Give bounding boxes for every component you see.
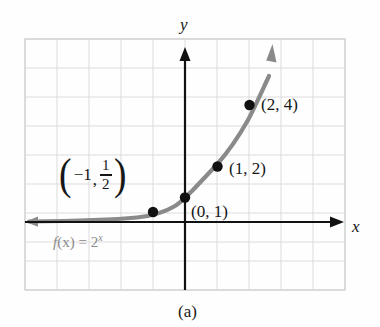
- function-equation-label: f(x) = 2x: [53, 233, 103, 250]
- data-point-neg1-half: [148, 207, 158, 217]
- data-point-0-1: [180, 192, 190, 202]
- right-paren: ): [114, 158, 126, 192]
- point-label-2-4: (2, 4): [261, 96, 298, 113]
- fraction-label-inner: −1 , 1 2: [73, 158, 113, 192]
- x-axis-arrowhead: [330, 217, 344, 228]
- x-value-neg-one: −1: [74, 165, 93, 185]
- fraction-numerator: 1: [100, 158, 112, 174]
- label-comma: ,: [93, 170, 100, 190]
- graph-canvas: [0, 0, 380, 327]
- function-exponent: x: [98, 232, 102, 243]
- exponential-function-figure: y x (2, 4) (1, 2) (0, 1) ( −1 , 1 2 ) f(…: [0, 0, 380, 327]
- y-axis-label: y: [180, 16, 188, 33]
- point-label-1-2: (1, 2): [229, 160, 266, 177]
- fraction-denominator: 2: [100, 176, 112, 192]
- data-point-2-4: [244, 100, 254, 110]
- left-paren: (: [59, 158, 71, 192]
- x-axis-label: x: [352, 218, 360, 235]
- fraction-one-half: 1 2: [100, 158, 112, 192]
- figure-caption: (a): [178, 303, 197, 320]
- exponential-curve: [29, 76, 269, 222]
- point-label-0-1: (0, 1): [191, 203, 228, 220]
- curve-right-arrowhead: [266, 44, 276, 63]
- function-argument: (x): [57, 234, 75, 250]
- y-axis-arrowhead: [180, 47, 191, 61]
- point-label-neg1-half: ( −1 , 1 2 ): [58, 158, 127, 192]
- function-equals-base: = 2: [75, 234, 98, 250]
- data-point-1-2: [212, 161, 222, 171]
